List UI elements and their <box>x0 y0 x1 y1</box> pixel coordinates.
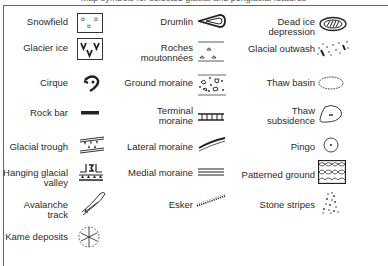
legend-label-terminal-moraine: Terminal moraine <box>133 106 193 126</box>
medial-moraine-icon <box>197 167 225 177</box>
ground-moraine-icon <box>197 73 227 97</box>
legend-label-thaw-basin: Thaw basin <box>266 78 315 88</box>
legend-label-roches-moutonnees: Roches moutonnées <box>133 43 193 63</box>
legend-label-glacial-outwash: Glacial outwash <box>248 44 315 54</box>
glacial-outwash-icon <box>316 38 350 60</box>
patterned-ground-icon <box>318 160 346 184</box>
legend-label-kame-deposits: Kame deposits <box>5 232 68 242</box>
drumlin-icon <box>198 14 226 28</box>
legend-label-stone-stripes: Stone stripes <box>260 200 315 210</box>
svg-text:ʊ: ʊ <box>81 15 85 22</box>
dead-ice-depression-icon <box>318 16 348 32</box>
legend-label-ground-moraine: Ground moraine <box>124 78 193 88</box>
pingo-icon <box>322 136 340 154</box>
snowfield-icon: ʊ ʊ ʊ <box>77 13 103 33</box>
legend-label-snowfield: Snowfield <box>27 17 68 27</box>
glacier-ice-icon <box>77 38 103 60</box>
legend-label-esker: Esker <box>169 200 193 210</box>
legend-label-avalanche-track: Avalanche track <box>8 200 68 220</box>
stone-stripes-icon <box>320 191 342 215</box>
svg-text:ʊ: ʊ <box>87 22 91 29</box>
glacial-trough-icon <box>79 135 105 155</box>
lateral-moraine-icon <box>197 135 227 153</box>
terminal-moraine-icon <box>197 112 225 122</box>
legend-label-drumlin: Drumlin <box>160 17 193 27</box>
kame-deposits-icon <box>77 225 101 249</box>
legend-label-hanging-valley: Hanging glacial valley <box>0 168 68 188</box>
legend-label-glacier-ice: Glacier ice <box>23 43 68 53</box>
legend-title: Map symbols for selected glacial and per… <box>0 0 387 3</box>
legend-label-lateral-moraine: Lateral moraine <box>127 142 193 152</box>
legend-label-rock-bar: Rock bar <box>30 108 68 118</box>
legend-label-dead-ice-depression: Dead ice depression <box>255 17 315 37</box>
thaw-basin-icon <box>317 75 345 91</box>
legend-label-thaw-subsidence: Thaw subsidence <box>255 106 315 126</box>
legend-label-pingo: Pingo <box>291 142 315 152</box>
thaw-subsidence-icon <box>317 103 345 125</box>
cirque-icon <box>82 74 102 94</box>
svg-text:ʊ: ʊ <box>94 15 98 22</box>
esker-icon <box>195 193 227 209</box>
roches-moutonnees-icon <box>197 39 225 63</box>
legend-label-cirque: Cirque <box>40 78 68 88</box>
avalanche-track-icon <box>80 190 108 218</box>
legend-label-glacial-trough: Glacial trough <box>9 142 68 152</box>
legend-label-medial-moraine: Medial moraine <box>128 168 193 178</box>
rock-bar-icon <box>81 110 101 116</box>
legend-label-patterned-ground: Patterned ground <box>242 170 315 180</box>
hanging-valley-icon <box>78 162 104 184</box>
